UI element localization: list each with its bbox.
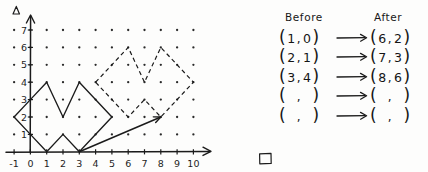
after-coordinate-pair[interactable]: (,) [370, 88, 410, 104]
table-header-row: Before After [252, 11, 428, 25]
coordinate-grid-svg: -1012345678910 1234567 [0, 0, 250, 172]
x-value[interactable]: 8 [377, 70, 388, 85]
y-tick-4: 4 [21, 77, 27, 88]
column-header-before: Before [285, 11, 323, 23]
open-paren: ( [279, 88, 286, 103]
x-tick-9: 9 [174, 158, 180, 169]
worksheet-page: -1012345678910 1234567 Before After (1,0… [0, 0, 428, 172]
y-tick-2: 2 [21, 112, 27, 123]
open-paren: ( [279, 69, 286, 84]
close-paren: ) [312, 108, 319, 123]
after-coordinate-pair[interactable]: (6,2) [370, 30, 410, 46]
comma: , [388, 90, 393, 104]
x-value[interactable]: 3 [286, 70, 297, 85]
maps-to-arrow-icon [336, 51, 369, 63]
after-coordinate-pair[interactable]: (7,3) [370, 49, 410, 65]
before-coordinate-pair[interactable]: (,) [279, 88, 319, 104]
open-paren: ( [370, 69, 377, 84]
close-paren: ) [403, 69, 410, 84]
table-row[interactable]: (,)(,) [252, 87, 428, 106]
graph-panel: -1012345678910 1234567 [0, 0, 250, 172]
close-paren: ) [403, 30, 410, 45]
maps-to-arrow-icon [336, 32, 369, 44]
y-value[interactable]: 4 [301, 70, 312, 85]
y-value[interactable]: 0 [301, 31, 312, 46]
y-value[interactable]: 1 [301, 50, 312, 65]
before-coordinate-pair[interactable]: (2,1) [279, 49, 319, 65]
close-paren: ) [403, 88, 410, 103]
x-tick-0: 0 [27, 158, 33, 169]
axis-tick-marks [14, 30, 193, 154]
x-tick-3: 3 [76, 158, 82, 169]
x-tick-2: 2 [60, 158, 66, 169]
x-axis [6, 147, 211, 155]
x-tick-6: 6 [125, 158, 131, 169]
before-coordinate-pair[interactable]: (,) [279, 108, 319, 124]
open-paren: ( [370, 108, 377, 123]
table-row[interactable]: (3,4)(8,6) [252, 67, 428, 86]
open-paren: ( [279, 30, 286, 45]
x-tick--1: -1 [9, 158, 18, 169]
x-tick-7: 7 [141, 158, 147, 169]
before-coordinate-pair[interactable]: (1,0) [279, 30, 319, 46]
after-coordinate-pair[interactable]: (8,6) [370, 69, 410, 85]
maps-to-arrow-icon [336, 90, 369, 102]
after-coordinate-pair[interactable]: (,) [370, 108, 410, 124]
comma: , [297, 90, 302, 104]
close-paren: ) [312, 49, 319, 64]
before-after-table: Before After (1,0)(6,2)(2,1)(7,3)(3,4)(8… [252, 0, 428, 172]
close-paren: ) [312, 69, 319, 84]
translation-arrow [79, 117, 161, 152]
y-value[interactable]: 2 [392, 31, 403, 46]
x-axis-tick-labels: -1012345678910 [9, 158, 199, 169]
open-paren: ( [370, 49, 377, 64]
open-paren: ( [279, 108, 286, 123]
x-tick-5: 5 [109, 158, 115, 169]
close-paren: ) [403, 108, 410, 123]
y-tick-7: 7 [21, 25, 27, 36]
y-axis-tick-labels: 1234567 [21, 25, 27, 140]
x-value[interactable]: 1 [286, 31, 297, 46]
checkbox-square-mark[interactable] [258, 150, 273, 163]
x-tick-8: 8 [158, 158, 164, 169]
table-row[interactable]: (2,1)(7,3) [252, 48, 428, 67]
y-value[interactable]: 3 [392, 50, 403, 65]
close-paren: ) [312, 30, 319, 45]
x-tick-1: 1 [44, 158, 50, 169]
square-icon [258, 152, 273, 165]
x-tick-4: 4 [93, 158, 99, 169]
triangle-marker-icon [13, 6, 20, 14]
y-value[interactable]: 6 [392, 70, 403, 85]
open-paren: ( [370, 88, 377, 103]
y-tick-5: 5 [21, 59, 27, 70]
x-tick-10: 10 [187, 158, 199, 169]
open-paren: ( [370, 30, 377, 45]
comma: , [388, 110, 393, 124]
table-row[interactable]: (1,0)(6,2) [252, 28, 428, 47]
close-paren: ) [403, 49, 410, 64]
x-value[interactable]: 7 [377, 50, 388, 65]
grid-dots [13, 29, 195, 136]
maps-to-arrow-icon [336, 71, 369, 83]
x-value[interactable]: 2 [286, 50, 297, 65]
open-paren: ( [279, 49, 286, 64]
x-value[interactable]: 6 [377, 31, 388, 46]
close-paren: ) [312, 88, 319, 103]
y-tick-6: 6 [21, 42, 27, 53]
comma: , [297, 110, 302, 124]
table-row[interactable]: (,)(,) [252, 106, 428, 125]
before-coordinate-pair[interactable]: (3,4) [279, 69, 319, 85]
maps-to-arrow-icon [336, 110, 369, 122]
column-header-after: After [374, 11, 402, 23]
